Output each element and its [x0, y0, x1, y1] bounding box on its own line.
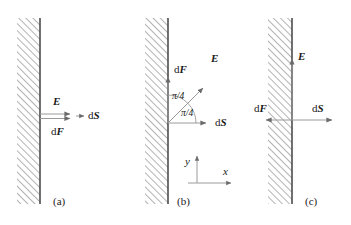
panel-a-caption: (a) [53, 196, 65, 207]
panel-c-label-dS: dS [312, 103, 324, 114]
panel-c-label-E: E [298, 51, 305, 62]
panel-a [17, 18, 84, 204]
panel-b-caption: (b) [177, 196, 190, 207]
panel-a-label-dF: dF [51, 126, 64, 137]
panel-b-label-dF: dF [174, 64, 187, 75]
physics-figure: E dF dS (a) dF E dS π/4 π/4 y x (b) E dF… [0, 0, 351, 225]
panel-c-caption: (c) [305, 196, 317, 207]
panel-b-axis-label-x: x [223, 166, 228, 177]
panel-a-wall [17, 18, 40, 204]
panel-b-label-E: E [211, 53, 218, 64]
panel-b-angle-label-lower: π/4 [181, 109, 193, 119]
panel-b-label-dS: dS [215, 117, 227, 128]
panel-b-wall [145, 18, 168, 204]
panel-b-angle-label-upper: π/4 [172, 92, 184, 102]
panel-b-axis-label-y: y [185, 156, 190, 167]
panel-c-label-dF: dF [254, 103, 267, 114]
panel-c-wall [268, 18, 292, 204]
figure-canvas [0, 0, 351, 225]
panel-a-label-dS: dS [88, 110, 100, 121]
panel-a-label-E: E [53, 96, 60, 107]
